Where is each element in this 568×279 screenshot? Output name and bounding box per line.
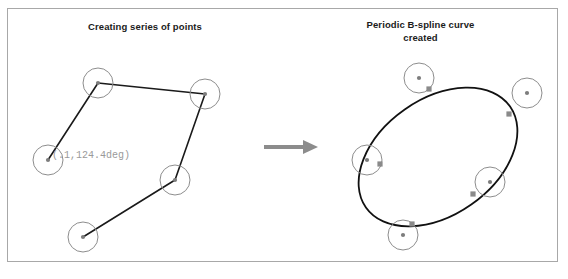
diagram-artwork [0, 0, 568, 279]
curve-touch-marker-4 [409, 221, 414, 226]
curve-touch-marker-0 [426, 86, 431, 91]
curve-touch-markers [377, 86, 511, 226]
figure-container: Creating series of points Periodic B-spl… [0, 0, 568, 279]
point-center-dot [203, 92, 207, 96]
left-point-P1 [83, 68, 113, 98]
transform-arrow [264, 140, 318, 154]
point-center-dot [401, 233, 405, 237]
curve-touch-marker-2 [377, 161, 382, 166]
coordinate-annotation: (.1,124.4deg) [52, 150, 130, 161]
point-center-dot [365, 158, 369, 162]
point-center-dot [525, 91, 529, 95]
point-center-dot [417, 76, 421, 80]
left-point-P2 [190, 79, 220, 109]
curve-touch-marker-3 [470, 191, 475, 196]
periodic-bspline-curve [333, 59, 544, 255]
left-point-P4 [160, 165, 190, 195]
point-center-dot [488, 180, 492, 184]
point-center-dot [81, 235, 85, 239]
point-center-dot [46, 158, 50, 162]
point-center-dot [173, 178, 177, 182]
right-point-Q4 [475, 167, 505, 197]
right-curve-group [333, 59, 544, 255]
right-point-markers [352, 63, 542, 250]
arrow-head [303, 140, 318, 154]
point-center-dot [96, 81, 100, 85]
right-point-Q2 [512, 78, 542, 108]
curve-touch-marker-1 [506, 111, 511, 116]
left-point-P5 [68, 222, 98, 252]
